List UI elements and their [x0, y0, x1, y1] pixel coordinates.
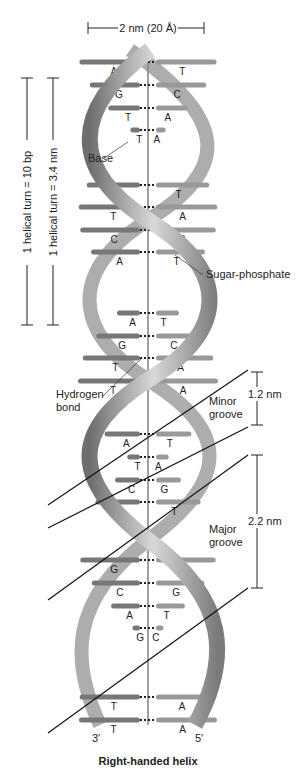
base-bar [156, 60, 217, 65]
base-bar [127, 455, 140, 460]
base-letter: G [161, 484, 169, 495]
base-bar [156, 432, 191, 437]
base-bar [79, 718, 140, 723]
base-bar [156, 83, 206, 88]
base-bar [156, 604, 185, 609]
base-letter: A [165, 112, 172, 123]
base-bar [130, 128, 140, 133]
base-bar [105, 432, 140, 437]
base-bar [156, 455, 169, 460]
base-letter: T [163, 610, 169, 621]
base-bar [83, 356, 140, 361]
base-letter: T [160, 317, 166, 328]
base-letter: G [136, 632, 144, 643]
svg-text:groove: groove [209, 536, 243, 548]
three-prime-label: 3′ [92, 732, 100, 744]
base-letter: T [176, 189, 182, 200]
base-letter: T [171, 506, 177, 517]
base-label: Base [88, 152, 113, 164]
base-letter: G [110, 564, 118, 575]
base-bar [156, 311, 179, 316]
base-letter: T [111, 701, 117, 712]
base-bar [91, 250, 140, 255]
base-letter: T [179, 66, 185, 77]
base-bar [156, 379, 218, 384]
base-letter: T [167, 438, 173, 449]
base-bar [108, 106, 140, 111]
base-bar [156, 478, 181, 483]
base-bar [156, 500, 201, 505]
base-bar [111, 604, 140, 609]
base-letter: T [112, 362, 118, 373]
base-letter: T [136, 134, 142, 145]
base-bar [80, 558, 140, 563]
major-groove-label: Major [209, 523, 237, 535]
base-bar [156, 626, 164, 631]
base-letter: C [173, 89, 180, 100]
base-letter: A [180, 385, 187, 396]
base-bar [132, 626, 140, 631]
base-letter: A [129, 317, 136, 328]
width-dimension: 2 nm (20 Å) [88, 20, 204, 34]
base-letter: C [110, 234, 117, 245]
turn-bp-label: 1 helical turn = 10 bp [21, 151, 33, 253]
turn-nm-label: 1 helical turn = 3.4 nm [47, 148, 59, 257]
base-letter: T [135, 461, 141, 472]
turn-dimensions: 1 helical turn = 10 bp 1 helical turn = … [20, 78, 60, 325]
base-letter: A [179, 701, 186, 712]
base-bar [80, 228, 140, 233]
base-bar [96, 334, 140, 339]
five-prime-label: 5′ [195, 732, 203, 744]
base-letter: A [179, 211, 186, 222]
major-dim-label: 2.2 nm [248, 515, 282, 527]
base-letter: A [126, 610, 133, 621]
base-letter: T [125, 112, 131, 123]
base-bar [156, 205, 217, 210]
base-bar [117, 311, 140, 316]
base-bar [92, 581, 140, 586]
minor-groove-label: Minor [209, 395, 237, 407]
minor-dim-label: 1.2 nm [248, 388, 282, 400]
width-label: 2 nm (20 Å) [119, 22, 176, 34]
svg-text:bond: bond [56, 401, 80, 413]
base-letter: A [123, 438, 130, 449]
base-bar [115, 478, 140, 483]
base-letter: G [118, 340, 126, 351]
base-bar [156, 128, 166, 133]
base-bar [156, 183, 209, 188]
base-bar [80, 695, 140, 700]
dna-helix-diagram: 2 nm (20 Å) 1 helical turn = 10 bp 1 hel… [0, 0, 297, 776]
base-bar [156, 718, 217, 723]
base-letter: A [116, 256, 123, 267]
base-letter: C [116, 587, 123, 598]
base-bar [156, 106, 188, 111]
base-letter: T [110, 211, 116, 222]
base-letter: C [152, 632, 159, 643]
caption: Right-handed helix [99, 755, 199, 767]
hydrogen-bond-label: Hydrogen [56, 388, 104, 400]
base-letter: A [179, 724, 186, 735]
base-letter: A [153, 134, 160, 145]
groove-dimensions: 1.2 nm 2.2 nm [245, 372, 285, 588]
base-letter: T [110, 724, 116, 735]
sugar-phosphate-label: Sugar-phosphate [206, 268, 290, 280]
base-letter: G [172, 587, 180, 598]
svg-text:groove: groove [209, 408, 243, 420]
